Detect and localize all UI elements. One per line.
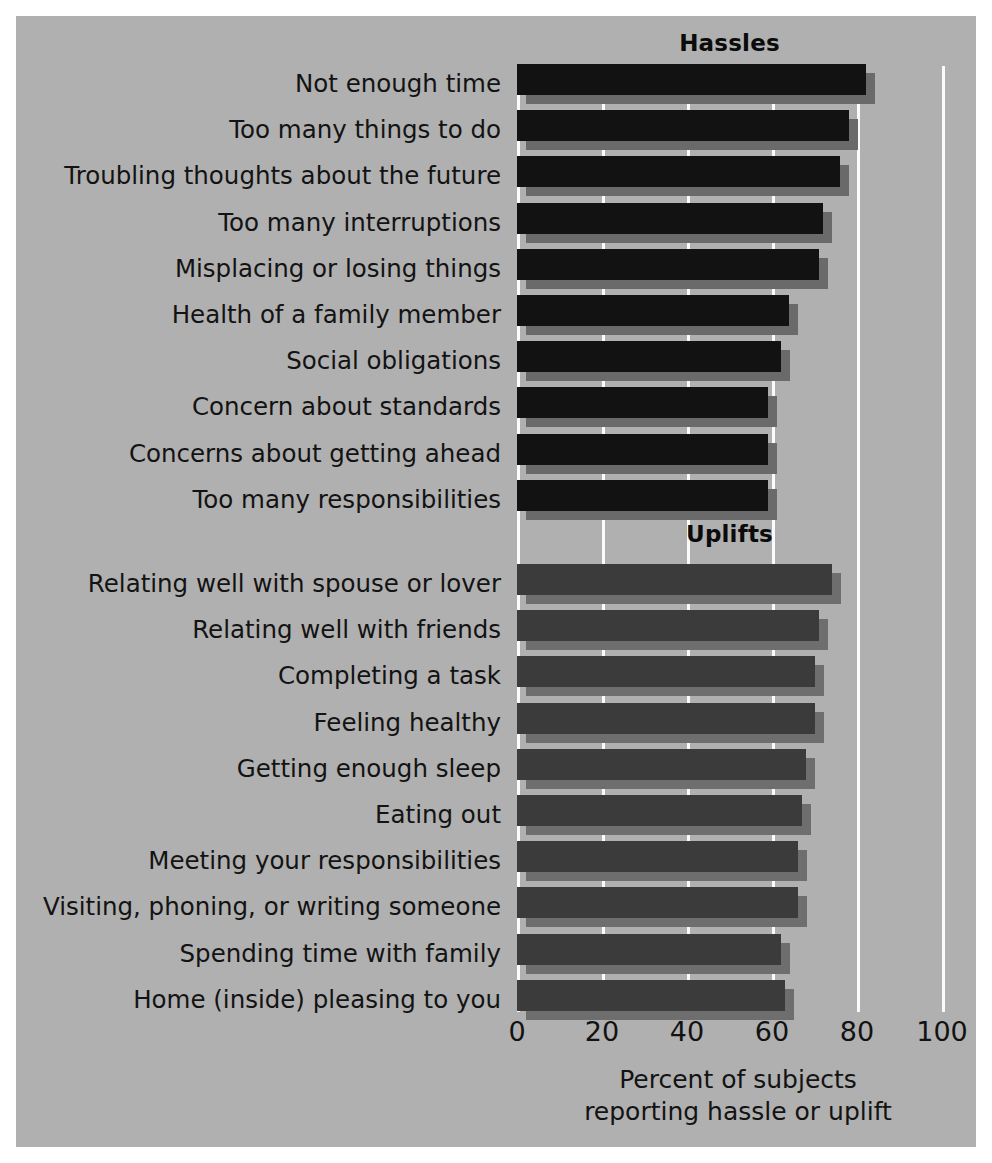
x-tick-label-100: 100 <box>916 1016 968 1047</box>
bar <box>517 980 795 1020</box>
x-tick-label-80: 80 <box>840 1016 874 1047</box>
category-label: Not enough time <box>16 64 511 104</box>
bar-face <box>517 387 768 418</box>
x-tick-label-0: 0 <box>508 1016 525 1047</box>
bar-row: Concerns about getting ahead <box>16 434 976 474</box>
bar <box>517 749 816 789</box>
category-label: Visiting, phoning, or writing someone <box>16 887 511 927</box>
x-axis-title-line2: reporting hassle or uplift <box>584 1096 892 1128</box>
bar-face <box>517 480 768 511</box>
bar <box>517 387 778 427</box>
section-heading-uplifts: Uplifts <box>686 521 773 547</box>
bar <box>517 203 833 243</box>
category-label: Home (inside) pleasing to you <box>16 980 511 1020</box>
bar-face <box>517 564 832 595</box>
chart-panel: Hassles Uplifts Not enough timeToo many … <box>16 16 976 1147</box>
section-heading-hassles: Hassles <box>679 30 780 56</box>
category-label: Concern about standards <box>16 387 511 427</box>
bar <box>517 295 799 335</box>
chart-figure: Hassles Uplifts Not enough timeToo many … <box>0 0 992 1163</box>
bar-face <box>517 341 781 372</box>
category-label: Meeting your responsibilities <box>16 841 511 881</box>
x-axis-title: Percent of subjects reporting hassle or … <box>584 1064 892 1128</box>
bar-row: Relating well with friends <box>16 610 976 650</box>
bar-row: Misplacing or losing things <box>16 249 976 289</box>
bar-row: Relating well with spouse or lover <box>16 564 976 604</box>
x-axis-title-line1: Percent of subjects <box>584 1064 892 1096</box>
bar-row: Eating out <box>16 795 976 835</box>
category-label: Completing a task <box>16 656 511 696</box>
bar-face <box>517 434 768 465</box>
bar-face <box>517 249 819 280</box>
bar-row: Completing a task <box>16 656 976 696</box>
bar <box>517 795 812 835</box>
bar-row: Spending time with family <box>16 934 976 974</box>
bar-face <box>517 841 798 872</box>
category-label: Troubling thoughts about the future <box>16 156 511 196</box>
bar-row: Health of a family member <box>16 295 976 335</box>
bar-face <box>517 64 866 95</box>
bar-row: Home (inside) pleasing to you <box>16 980 976 1020</box>
category-label: Relating well with friends <box>16 610 511 650</box>
bar-face <box>517 703 815 734</box>
bar <box>517 64 876 104</box>
bar-row: Troubling thoughts about the future <box>16 156 976 196</box>
bar <box>517 841 808 881</box>
bar <box>517 703 825 743</box>
category-label: Relating well with spouse or lover <box>16 564 511 604</box>
category-label: Getting enough sleep <box>16 749 511 789</box>
bar <box>517 249 829 289</box>
bar-face <box>517 887 798 918</box>
bar <box>517 564 842 604</box>
bar-row: Social obligations <box>16 341 976 381</box>
bar-face <box>517 656 815 687</box>
category-label: Eating out <box>16 795 511 835</box>
x-tick-label-60: 60 <box>755 1016 789 1047</box>
bar-row: Not enough time <box>16 64 976 104</box>
bar-face <box>517 980 785 1011</box>
bar-row: Feeling healthy <box>16 703 976 743</box>
bar-face <box>517 795 802 826</box>
bar-row: Too many interruptions <box>16 203 976 243</box>
bar <box>517 934 791 974</box>
bar <box>517 156 850 196</box>
category-label: Too many interruptions <box>16 203 511 243</box>
bar-row: Visiting, phoning, or writing someone <box>16 887 976 927</box>
bar-face <box>517 749 806 780</box>
category-label: Misplacing or losing things <box>16 249 511 289</box>
bar <box>517 656 825 696</box>
bar <box>517 341 791 381</box>
category-label: Health of a family member <box>16 295 511 335</box>
bar <box>517 434 778 474</box>
bar-face <box>517 610 819 641</box>
category-label: Concerns about getting ahead <box>16 434 511 474</box>
bar-face <box>517 934 781 965</box>
bar-row: Concern about standards <box>16 387 976 427</box>
category-label: Too many responsibilities <box>16 480 511 520</box>
bar-row: Too many responsibilities <box>16 480 976 520</box>
bar <box>517 610 829 650</box>
bar <box>517 887 808 927</box>
bar <box>517 480 778 520</box>
bar-face <box>517 156 840 187</box>
bar-row: Meeting your responsibilities <box>16 841 976 881</box>
category-label: Feeling healthy <box>16 703 511 743</box>
bar-row: Getting enough sleep <box>16 749 976 789</box>
bar-row: Too many things to do <box>16 110 976 150</box>
bar-face <box>517 110 849 141</box>
x-tick-label-40: 40 <box>670 1016 704 1047</box>
category-label: Social obligations <box>16 341 511 381</box>
category-label: Too many things to do <box>16 110 511 150</box>
bar <box>517 110 859 150</box>
x-tick-label-20: 20 <box>585 1016 619 1047</box>
bar-face <box>517 203 823 234</box>
bar-face <box>517 295 789 326</box>
category-label: Spending time with family <box>16 934 511 974</box>
